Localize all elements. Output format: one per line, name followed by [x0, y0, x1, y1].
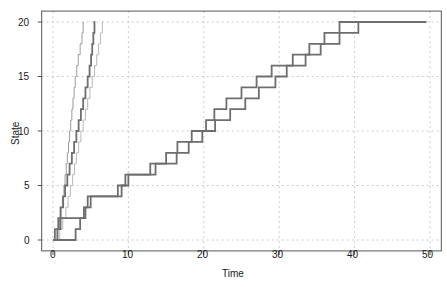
- series-lines: [53, 22, 426, 240]
- xtick-label-50: 50: [422, 249, 433, 260]
- grid-lines: [42, 11, 442, 251]
- step-plot-canvas: [0, 0, 447, 287]
- series-slow-path-1: [53, 22, 426, 240]
- x-axis-title: Time: [222, 268, 244, 279]
- chart-figure: 0 5 10 15 20 0 10 20 30 40 50 State Time: [0, 0, 447, 287]
- series-slow-path-2: [53, 22, 426, 240]
- y-axis-title: State: [10, 122, 21, 145]
- xtick-label-0: 0: [50, 249, 56, 260]
- ytick-label-20: 20: [18, 17, 29, 28]
- xtick-label-30: 30: [272, 249, 283, 260]
- ytick-label-0: 0: [24, 235, 30, 246]
- ytick-label-15: 15: [18, 71, 29, 82]
- xtick-label-40: 40: [347, 249, 358, 260]
- plot-frame: [42, 11, 442, 251]
- xtick-label-10: 10: [122, 249, 133, 260]
- ytick-label-5: 5: [24, 180, 30, 191]
- xtick-label-20: 20: [197, 249, 208, 260]
